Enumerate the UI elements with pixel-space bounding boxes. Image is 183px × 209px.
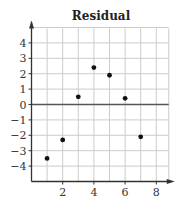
data-point — [138, 134, 143, 139]
y-tick-label: 1 — [20, 83, 27, 96]
x-tick-label: 2 — [59, 186, 66, 199]
y-tick-label: −3 — [10, 145, 26, 158]
data-point — [123, 96, 128, 101]
x-tick-label: 6 — [122, 186, 129, 199]
data-point — [76, 94, 81, 99]
data-point — [92, 65, 97, 70]
data-point — [45, 156, 50, 161]
x-axis-arrow-icon — [167, 179, 175, 184]
x-tick-label: 8 — [153, 186, 160, 199]
chart-title: Residual — [72, 9, 131, 23]
residual-scatter-chart: Residual 43210−1−2−3−4 2468 — [0, 0, 183, 209]
axes — [29, 20, 175, 184]
data-point — [107, 73, 112, 78]
y-tick-label: 0 — [20, 99, 27, 112]
y-axis-tick-labels: 43210−1−2−3−4 — [10, 37, 31, 173]
y-tick-label: 3 — [20, 52, 27, 65]
x-tick-label: 4 — [90, 186, 97, 199]
y-tick-label: 4 — [20, 37, 27, 50]
y-tick-label: −4 — [10, 160, 26, 173]
y-tick-label: −2 — [10, 129, 26, 142]
y-tick-label: 2 — [20, 68, 27, 81]
y-tick-label: −1 — [10, 114, 26, 127]
y-axis-arrow-icon — [29, 20, 34, 28]
data-point — [60, 138, 65, 143]
x-axis-tick-labels: 2468 — [59, 182, 160, 199]
